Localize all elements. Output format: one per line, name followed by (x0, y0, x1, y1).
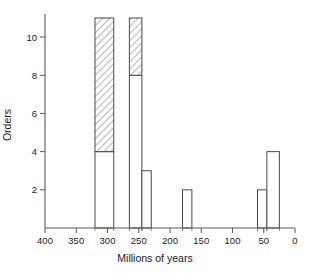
bar-segment-hatched (129, 18, 142, 75)
bar-segment-open (129, 75, 142, 228)
bar-group (95, 18, 114, 228)
x-axis-tick-labels: 400350300250200150100500 (37, 235, 298, 246)
y-tick-label: 4 (32, 146, 37, 157)
y-axis-tick-labels: 246810 (26, 32, 37, 196)
x-tick-label: 300 (100, 235, 116, 246)
x-axis-title: Millions of years (117, 252, 192, 264)
bar-segment-open (258, 190, 267, 228)
bar-segment-open (267, 152, 280, 228)
y-tick-label: 8 (32, 70, 37, 81)
bar-group (267, 152, 280, 228)
bar-segment-open (142, 171, 151, 228)
bar-segment-open (183, 190, 192, 228)
bar-segment-open (95, 152, 114, 228)
histogram-chart: 400350300250200150100500 246810 Millions… (0, 0, 310, 273)
y-tick-label: 6 (32, 108, 37, 119)
bars-layer (95, 18, 279, 228)
x-axis-ticks (40, 37, 295, 233)
chart-canvas: 400350300250200150100500 246810 Millions… (0, 0, 310, 273)
x-tick-label: 50 (258, 235, 269, 246)
y-tick-label: 2 (32, 184, 37, 195)
y-axis-title: Orders (1, 109, 13, 141)
x-tick-label: 100 (225, 235, 241, 246)
bar-group (183, 190, 192, 228)
x-tick-label: 0 (292, 235, 297, 246)
bar-group (129, 18, 142, 228)
x-tick-label: 400 (37, 235, 53, 246)
bar-group (142, 171, 151, 228)
x-tick-label: 150 (193, 235, 209, 246)
x-tick-label: 200 (162, 235, 178, 246)
bar-segment-hatched (95, 18, 114, 152)
y-tick-label: 10 (26, 32, 37, 43)
x-tick-label: 250 (131, 235, 147, 246)
x-tick-label: 350 (68, 235, 84, 246)
bar-group (258, 190, 267, 228)
